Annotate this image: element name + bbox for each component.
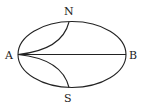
diagram-canvas: N S A B — [0, 0, 143, 106]
label-b: B — [129, 49, 137, 62]
label-n: N — [64, 5, 74, 18]
label-a: A — [4, 49, 14, 62]
label-s: S — [64, 92, 72, 105]
